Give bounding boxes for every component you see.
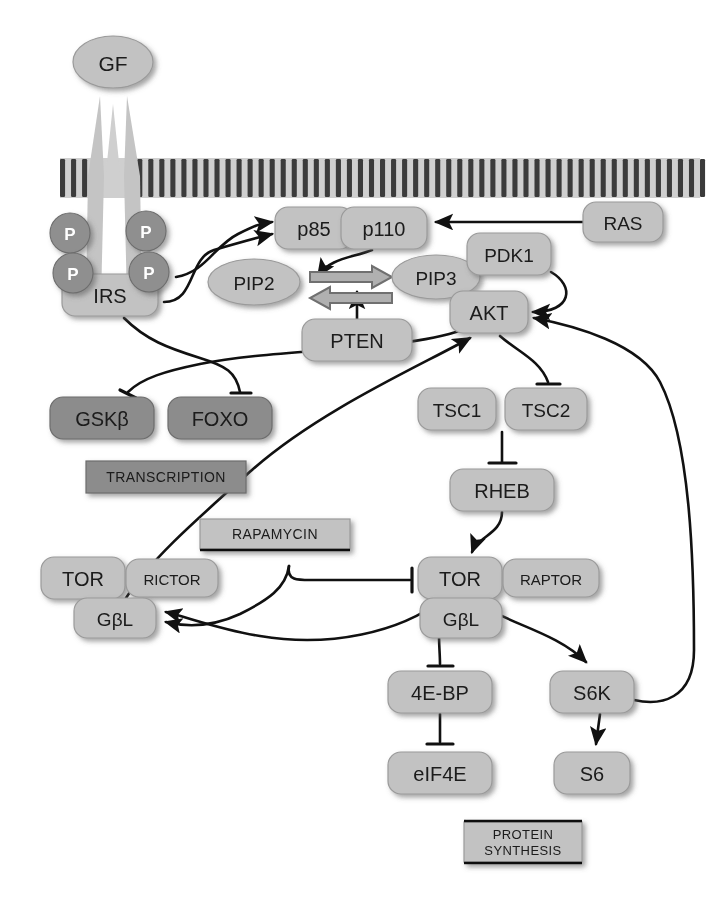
node-label-rheb: RHEB xyxy=(474,480,530,502)
node-4ebp[interactable]: 4E-BP xyxy=(388,671,492,713)
node-rheb[interactable]: RHEB xyxy=(450,469,554,511)
pathway-boxes: RAPAMYCINTRANSCRIPTIONPROTEINSYNTHESIS xyxy=(86,461,582,863)
box-label-transcription: TRANSCRIPTION xyxy=(106,469,226,485)
phospho-label-p-br: P xyxy=(143,264,154,283)
edge-s6k-feedback xyxy=(534,318,694,702)
node-label-eif4e: eIF4E xyxy=(413,763,466,785)
phospho-p-bl[interactable]: P xyxy=(53,253,93,293)
node-label-ras: RAS xyxy=(603,213,642,234)
node-rictor[interactable]: RICTOR xyxy=(126,559,218,597)
box-protein_synthesis[interactable]: PROTEINSYNTHESIS xyxy=(464,821,582,863)
node-label-p85: p85 xyxy=(297,218,330,240)
node-pdk1[interactable]: PDK1 xyxy=(467,233,551,275)
node-label-tsc2: TSC2 xyxy=(522,400,571,421)
node-raptor[interactable]: RAPTOR xyxy=(503,559,599,597)
node-foxo[interactable]: FOXO xyxy=(168,397,272,439)
node-eif4e[interactable]: eIF4E xyxy=(388,752,492,794)
node-akt[interactable]: AKT xyxy=(450,291,528,333)
pathway-diagram: GFIRSp85p110RASPIP2PIP3PDK1AKTPTENGSKβFO… xyxy=(0,0,715,898)
phospho-p-tr[interactable]: P xyxy=(126,211,166,251)
node-label-pip2: PIP2 xyxy=(233,273,274,294)
pip-conversion-arrows xyxy=(310,266,392,309)
node-tor2[interactable]: TOR xyxy=(41,557,125,599)
node-label-pdk1: PDK1 xyxy=(484,245,534,266)
edge-rheb-to-tor1 xyxy=(472,512,502,552)
node-pip2[interactable]: PIP2 xyxy=(208,259,300,305)
block-arrow-pip3-to-pip2 xyxy=(310,287,392,309)
node-p110[interactable]: p110 xyxy=(341,207,427,249)
node-label-s6k: S6K xyxy=(573,682,611,704)
node-s6k[interactable]: S6K xyxy=(550,671,634,713)
node-tor1[interactable]: TOR xyxy=(418,557,502,599)
node-tsc1[interactable]: TSC1 xyxy=(418,388,496,430)
box-rapamycin[interactable]: RAPAMYCIN xyxy=(200,519,350,550)
node-label-tor1: TOR xyxy=(439,568,481,590)
phospho-p-br[interactable]: P xyxy=(129,252,169,292)
node-label-s6: S6 xyxy=(580,763,604,785)
node-label-foxo: FOXO xyxy=(192,408,249,430)
edge-s6k-to-s6 xyxy=(596,714,600,744)
node-label-tor2: TOR xyxy=(62,568,104,590)
node-label-pten: PTEN xyxy=(330,330,383,352)
node-gf[interactable]: GF xyxy=(73,36,153,88)
node-ras[interactable]: RAS xyxy=(583,202,663,242)
node-label-4ebp: 4E-BP xyxy=(411,682,469,704)
node-label-raptor: RAPTOR xyxy=(520,571,582,588)
edge-pdk1-to-akt xyxy=(533,272,566,312)
node-label-gbl1: GβL xyxy=(443,609,479,630)
phospho-label-p-tr: P xyxy=(140,223,151,242)
box-label-protein_synthesis: SYNTHESIS xyxy=(484,843,561,858)
node-label-gsk: GSKβ xyxy=(75,408,129,430)
edge-tor1-to-tor2 xyxy=(166,600,442,640)
node-tsc2[interactable]: TSC2 xyxy=(505,388,587,430)
node-label-tsc1: TSC1 xyxy=(433,400,482,421)
node-pten[interactable]: PTEN xyxy=(302,319,412,361)
node-label-pip3: PIP3 xyxy=(415,268,456,289)
node-label-akt: AKT xyxy=(470,302,509,324)
pathway-canvas: GFIRSp85p110RASPIP2PIP3PDK1AKTPTENGSKβFO… xyxy=(0,0,715,898)
plasma-membrane xyxy=(60,158,705,198)
node-label-gf: GF xyxy=(98,52,127,75)
node-gbl1[interactable]: GβL xyxy=(420,598,502,638)
node-label-p110: p110 xyxy=(362,218,405,240)
box-transcription[interactable]: TRANSCRIPTION xyxy=(86,461,246,493)
edge-rapamycin-to-tor1 xyxy=(289,566,410,580)
node-gsk[interactable]: GSKβ xyxy=(50,397,154,439)
node-label-gbl2: GβL xyxy=(97,609,133,630)
node-s6[interactable]: S6 xyxy=(554,752,630,794)
node-gbl2[interactable]: GβL xyxy=(74,598,156,638)
phospho-label-p-tl: P xyxy=(64,225,75,244)
box-label-protein_synthesis: PROTEIN xyxy=(493,827,554,842)
box-label-rapamycin: RAPAMYCIN xyxy=(232,526,318,542)
phospho-p-tl[interactable]: P xyxy=(50,213,90,253)
phospho-label-p-bl: P xyxy=(67,265,78,284)
node-label-rictor: RICTOR xyxy=(143,571,200,588)
edge-akt-to-tsc2 xyxy=(500,336,548,382)
node-label-irs: IRS xyxy=(93,285,126,307)
